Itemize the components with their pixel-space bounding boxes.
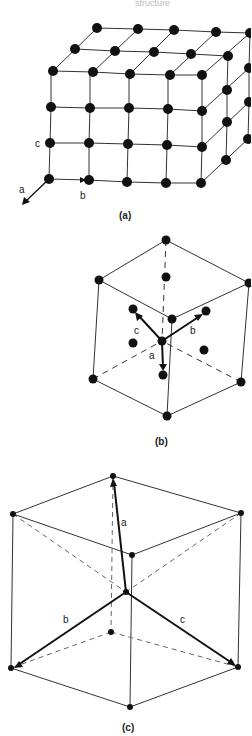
axis-label-a: a bbox=[19, 184, 25, 195]
axis-label-c: c bbox=[35, 138, 40, 149]
axis-label-a-c: a bbox=[121, 517, 127, 528]
axis-label-c-c: c bbox=[180, 614, 185, 625]
crystal-lattice-figure: structure bbox=[0, 0, 251, 736]
panel-c-axis-vectors bbox=[14, 478, 236, 668]
axis-label-b-c: b bbox=[63, 614, 69, 625]
axis-label-b-b: b bbox=[190, 325, 196, 336]
axis-label-a-b: a bbox=[149, 350, 155, 361]
panel-a-atoms bbox=[44, 23, 251, 188]
axis-label-b: b bbox=[80, 190, 86, 201]
caption-c: (c) bbox=[122, 722, 134, 733]
caption-a: (a) bbox=[119, 210, 131, 221]
caption-b: (b) bbox=[155, 436, 168, 447]
axis-label-c-b: c bbox=[134, 325, 139, 336]
panel-a-axis-vectors bbox=[22, 140, 86, 205]
panel-b-cube bbox=[93, 240, 249, 416]
header-text: structure bbox=[135, 0, 170, 8]
panel-b-atoms bbox=[89, 236, 252, 421]
